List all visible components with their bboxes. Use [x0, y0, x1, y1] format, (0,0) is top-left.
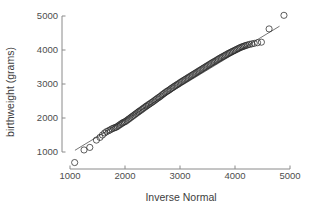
x-tick-label: 5000 [279, 170, 300, 181]
plot-canvas: 10002000300040005000 1000200030004000500… [0, 0, 324, 206]
y-tick-label: 2000 [37, 112, 58, 123]
y-axis-title: birthweight (grams) [4, 47, 16, 137]
x-tick-label: 1000 [59, 170, 80, 181]
y-tick-label: 1000 [37, 146, 58, 157]
x-tick-label: 2000 [114, 170, 135, 181]
x-tick-label: 3000 [169, 170, 190, 181]
y-tick-label: 4000 [37, 44, 58, 55]
x-axis-title: Inverse Normal [145, 191, 216, 203]
x-tick-label: 4000 [224, 170, 245, 181]
qq-plot-figure: 10002000300040005000 1000200030004000500… [0, 0, 324, 206]
y-tick-label: 3000 [37, 78, 58, 89]
y-tick-label: 5000 [37, 10, 58, 21]
plot-background [0, 0, 324, 206]
